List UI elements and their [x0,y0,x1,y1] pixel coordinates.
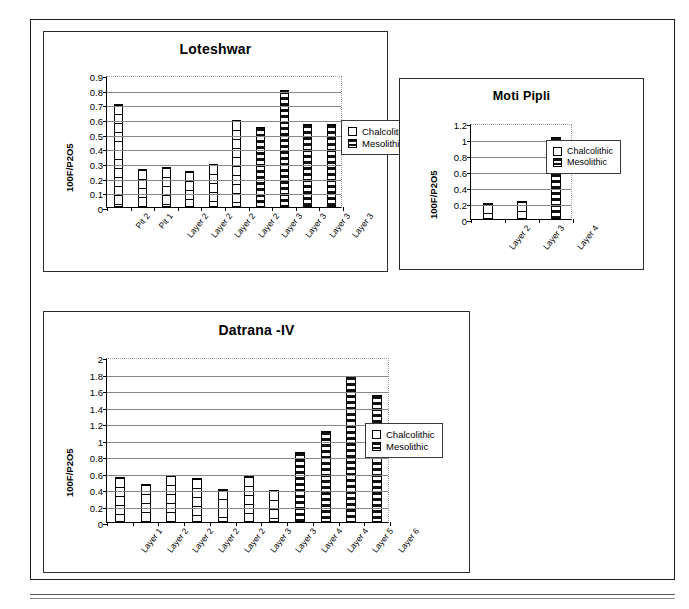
bar [162,167,171,207]
y-axis-label-moti-pipli: 100F/P2O5 [428,170,439,219]
x-tick-label: Layer 4 [319,526,344,555]
y-tick-label: 1.6 [90,387,103,398]
legend-label-mesolithic: Mesolithic [567,158,607,167]
gridline [107,508,388,509]
x-tick-label: Layer 2 [232,211,257,240]
gridline [471,189,571,190]
y-tick-label: 0.4 [90,145,103,156]
x-tick-label: Layer 3 [541,223,566,252]
x-tick-mark [313,522,314,526]
y-tick-mark [467,141,471,142]
y-tick-mark [103,442,107,443]
x-tick-label: Layer 6 [396,526,421,555]
y-tick-label: 1.8 [90,370,103,381]
y-tick-mark [103,458,107,459]
y-tick-label: 0 [98,519,103,530]
bar [295,452,305,522]
chart-panel-loteshwar: Loteshwar 100F/P2O5 0.90.80.70.60.50.40.… [43,31,388,272]
bar [114,104,123,207]
x-tick-label: Layer 3 [279,211,304,240]
x-tick-mark [210,522,211,526]
gridline [107,150,341,151]
y-axis-label-datrana-iv: 100F/P2O5 [64,448,75,497]
x-tick-label: Layer 3 [326,211,351,240]
bar [269,490,279,522]
bar [192,478,202,522]
legend-item-chalcolithic: Chalcolithic [553,147,613,156]
x-tick-mark [131,207,132,211]
legend-label-mesolithic: Mesolithic [386,442,428,452]
x-tick-mark [154,207,155,211]
bar [115,477,125,522]
chart-title-moti-pipli: Moti Pipli [400,89,643,103]
x-tick-label: Layer 2 [164,526,189,555]
y-tick-mark [103,106,107,107]
y-tick-label: 0.6 [454,168,467,179]
legend-label-chalcolithic: Chalcolithic [386,430,435,440]
y-tick-mark [103,150,107,151]
x-tick-mark [107,207,108,211]
y-tick-mark [103,475,107,476]
x-tick-mark [178,207,179,211]
striped-square-icon [372,442,381,451]
y-tick-label: 0.1 [90,189,103,200]
y-tick-mark [467,205,471,206]
y-tick-mark [103,409,107,410]
plot-area-loteshwar: 0.90.80.70.60.50.40.30.20.10 [106,76,342,208]
x-tick-mark [390,522,391,526]
gridline [107,92,341,93]
x-tick-label: Pit 2 [133,211,151,231]
gridline [107,165,341,166]
y-tick-label: 0.8 [90,453,103,464]
gridline [107,376,388,377]
x-tick-label: Layer 2 [185,211,210,240]
chart-title-loteshwar: Loteshwar [44,41,387,57]
x-tick-mark [364,522,365,526]
bar [185,171,194,207]
x-tick-mark [261,522,262,526]
y-tick-label: 0.2 [90,502,103,513]
x-tick-label: Layer 2 [242,526,267,555]
x-tick-mark [471,219,472,223]
y-tick-label: 0.2 [454,200,467,211]
y-tick-mark [103,136,107,137]
scanned-figure-page: Loteshwar 100F/P2O5 0.90.80.70.60.50.40.… [0,0,689,609]
white-square-icon [553,147,562,156]
legend-datrana-iv: Chalcolithic Mesolithic [365,423,443,458]
y-tick-mark [467,173,471,174]
bar [138,169,147,207]
white-square-icon [348,127,357,136]
y-tick-label: 0 [98,204,103,215]
chart-title-datrana-iv: Datrana -IV [44,322,469,338]
y-tick-label: 0.6 [90,116,103,127]
gridline [107,106,341,107]
page-footer-rule-secondary [30,598,675,599]
x-tick-mark [133,522,134,526]
x-tick-mark [573,219,574,223]
y-tick-label: 0.7 [90,101,103,112]
gridline [107,475,388,476]
legend-item-chalcolithic: Chalcolithic [372,430,435,440]
y-axis-label-loteshwar: 100F/P2O5 [64,143,75,192]
y-tick-label: 0.8 [454,152,467,163]
x-tick-label: Layer 3 [293,526,318,555]
y-tick-mark [103,508,107,509]
legend-item-mesolithic: Mesolithic [553,158,613,167]
gridline [107,180,341,181]
bar-group-loteshwar [107,77,341,207]
bar [209,164,218,207]
gridline [107,121,341,122]
y-tick-mark [103,491,107,492]
x-tick-label: Layer 2 [256,211,281,240]
gridline [107,491,388,492]
bar [346,376,356,522]
x-tick-mark [287,522,288,526]
y-tick-mark [467,189,471,190]
bar [166,475,176,522]
legend-moti-pipli: Chalcolithic Mesolithic [546,140,621,174]
x-tick-label: Layer 3 [303,211,328,240]
x-tick-label: Layer 2 [507,223,532,252]
x-tick-label: Layer 3 [267,526,292,555]
y-tick-label: 0.6 [90,469,103,480]
y-tick-label: 0 [462,216,467,227]
